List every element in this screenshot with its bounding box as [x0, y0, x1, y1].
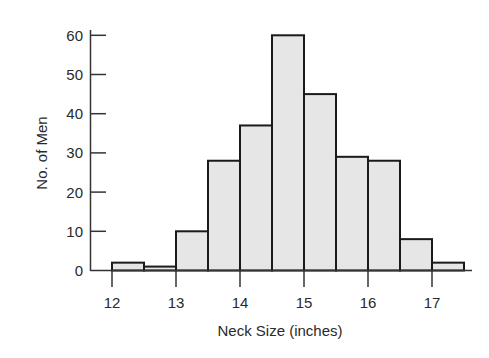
- x-tick-label: 12: [104, 294, 121, 311]
- y-tick-label: 30: [66, 144, 83, 161]
- x-axis-ticks: 121314151617: [104, 271, 441, 312]
- histogram-bar: [176, 231, 208, 270]
- x-tick-label: 16: [360, 294, 377, 311]
- y-tick-label: 0: [75, 262, 83, 279]
- histogram-bar: [304, 94, 336, 270]
- histogram-bar: [400, 239, 432, 270]
- y-tick-label: 10: [66, 223, 83, 240]
- y-axis-title: No. of Men: [33, 116, 50, 189]
- x-tick-label: 13: [168, 294, 185, 311]
- histogram-bar: [208, 161, 240, 271]
- y-tick-label: 40: [66, 105, 83, 122]
- y-tick-label: 60: [66, 27, 83, 44]
- histogram-bar: [272, 35, 304, 270]
- histogram-bar: [368, 161, 400, 271]
- x-tick-label: 15: [296, 294, 313, 311]
- histogram-bar: [432, 263, 464, 271]
- histogram-chart: 0102030405060 121314151617 Neck Size (in…: [0, 0, 489, 358]
- y-tick-label: 50: [66, 66, 83, 83]
- x-tick-label: 17: [424, 294, 441, 311]
- x-tick-label: 14: [232, 294, 249, 311]
- histogram-bar: [336, 157, 368, 271]
- y-axis-ticks: 0102030405060: [66, 27, 106, 279]
- histogram-bar: [112, 263, 144, 271]
- histogram-bars: [112, 35, 464, 270]
- histogram-bar: [240, 125, 272, 270]
- y-tick-label: 20: [66, 184, 83, 201]
- x-axis-title: Neck Size (inches): [217, 322, 342, 339]
